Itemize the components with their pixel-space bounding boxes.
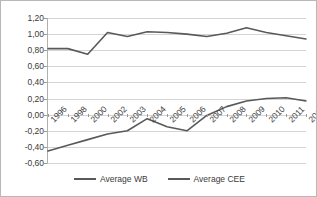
- y-tick-mark: [44, 50, 47, 51]
- legend-item[interactable]: Average CEE: [168, 175, 245, 184]
- y-tick-mark: [44, 147, 47, 148]
- y-tick-mark: [44, 66, 47, 67]
- y-tick-mark: [44, 99, 47, 100]
- y-tick-mark: [44, 18, 47, 19]
- legend-line-swatch-icon: [168, 178, 190, 180]
- y-tick-mark: [44, 131, 47, 132]
- x-axis-tick-labels: 1996199820002002200320042005200620072008…: [48, 114, 306, 174]
- y-axis-tick-labels: 1,201,000,800,600,400,200,00-0,20-0,40-0…: [1, 1, 44, 197]
- y-tick-mark: [44, 163, 47, 164]
- y-tick-label: 0,80: [10, 46, 44, 55]
- legend-label: Average WB: [100, 175, 148, 184]
- y-tick-mark: [44, 82, 47, 83]
- chart-legend: Average WBAverage CEE: [1, 175, 317, 184]
- y-tick-label: -0,40: [10, 143, 44, 152]
- legend-label: Average CEE: [194, 175, 245, 184]
- y-tick-label: 0,20: [10, 94, 44, 103]
- y-tick-label: 1,00: [10, 30, 44, 39]
- series-line-average-wb: [48, 28, 306, 55]
- y-tick-label: -0,20: [10, 127, 44, 136]
- chart-figure: 1,201,000,800,600,400,200,00-0,20-0,40-0…: [0, 0, 317, 197]
- y-tick-mark: [44, 34, 47, 35]
- y-tick-mark: [44, 115, 47, 116]
- y-tick-label: -0,60: [10, 159, 44, 168]
- y-tick-label: 0,60: [10, 62, 44, 71]
- y-tick-label: 0,40: [10, 78, 44, 87]
- x-tick-label: 2012: [307, 105, 317, 124]
- y-tick-label: 0,00: [10, 110, 44, 119]
- y-tick-label: 1,20: [10, 14, 44, 23]
- legend-item[interactable]: Average WB: [74, 175, 148, 184]
- legend-line-swatch-icon: [74, 178, 96, 180]
